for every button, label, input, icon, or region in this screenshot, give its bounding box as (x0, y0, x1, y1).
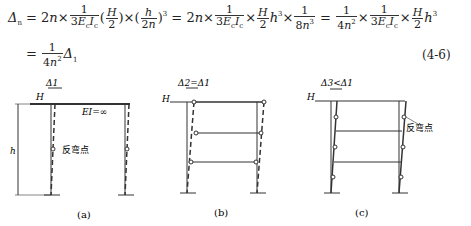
label-h: h (10, 146, 16, 156)
label-H-b: H (161, 94, 170, 104)
caption-b: (b) (214, 207, 228, 218)
label-delta2: Δ2=Δ1 (177, 78, 210, 88)
label-inflection-a: 反弯点 (62, 144, 89, 155)
caption-c: (c) (355, 207, 369, 218)
frame-diagrams: H Δ1 EI=∞ h 反弯点 (a) H Δ2=Δ1 (b) H Δ3<Δ1 … (0, 0, 471, 226)
label-EI: EI=∞ (81, 107, 107, 117)
figure-a (15, 88, 134, 195)
label-delta3: Δ3<Δ1 (320, 78, 353, 88)
label-H-c: H (306, 92, 315, 102)
caption-a: (a) (77, 209, 91, 220)
figure-c (315, 89, 418, 193)
label-delta1: Δ1 (45, 78, 58, 88)
label-inflection-c: 反弯点 (406, 122, 433, 133)
figure-b (170, 88, 266, 193)
label-H-a: H (35, 92, 44, 102)
